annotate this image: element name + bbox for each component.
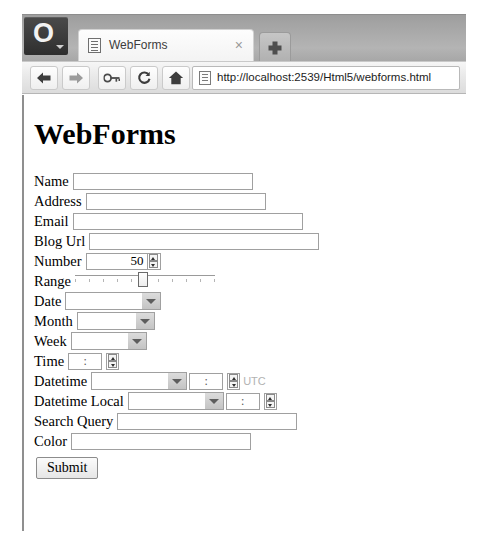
number-input[interactable] <box>86 253 148 270</box>
address-bar[interactable]: http://localhost:2539/Html5/webforms.htm… <box>192 66 460 90</box>
label-email: Email <box>34 213 73 230</box>
email-input[interactable] <box>73 213 303 230</box>
form-row-week: Week <box>34 331 466 351</box>
name-input[interactable] <box>73 173 253 190</box>
datetime-local-time-input[interactable]: : <box>226 393 260 410</box>
number-stepper[interactable] <box>148 253 161 270</box>
label-name: Name <box>34 173 73 190</box>
stepper-up-icon[interactable] <box>149 254 158 261</box>
stepper-down-icon[interactable] <box>229 381 238 388</box>
tab-strip: O WebForms × <box>22 14 466 62</box>
datetime-stepper[interactable] <box>227 373 240 390</box>
label-address: Address <box>34 193 86 210</box>
stepper-up-icon[interactable] <box>229 374 238 381</box>
range-slider[interactable] <box>75 272 215 290</box>
label-range: Range <box>34 273 75 290</box>
site-favicon-icon <box>199 71 211 85</box>
back-arrow-icon <box>37 72 52 85</box>
plus-icon <box>269 41 282 54</box>
form-row-month: Month <box>34 311 466 331</box>
new-tab-button[interactable] <box>259 32 291 62</box>
address-input[interactable] <box>86 193 266 210</box>
chevron-down-icon[interactable] <box>168 373 186 389</box>
opera-menu-button[interactable]: O <box>24 17 68 55</box>
stepper-down-icon[interactable] <box>266 401 275 408</box>
form-row-name: Name <box>34 171 466 191</box>
form-row-blog-url: Blog Url <box>34 231 466 251</box>
web-forms: Name Address Email Blog Url <box>34 171 466 479</box>
page-viewport: WebForms Name Address Email <box>22 95 466 531</box>
range-thumb[interactable] <box>138 272 148 287</box>
address-bar-url: http://localhost:2539/Html5/webforms.htm… <box>217 71 431 83</box>
key-icon <box>104 73 121 84</box>
security-key-button[interactable] <box>98 66 126 90</box>
date-picker[interactable] <box>65 292 161 310</box>
back-button[interactable] <box>30 66 58 90</box>
stepper-down-icon[interactable] <box>149 261 158 268</box>
label-month: Month <box>34 313 77 330</box>
label-search-query: Search Query <box>34 413 117 430</box>
time-input[interactable]: : <box>68 353 102 370</box>
reload-icon <box>137 71 152 86</box>
label-datetime-local: Datetime Local <box>34 393 128 410</box>
month-picker[interactable] <box>77 312 155 330</box>
form-row-range: Range <box>34 271 466 291</box>
week-picker[interactable] <box>71 332 147 350</box>
chevron-down-icon[interactable] <box>142 293 160 309</box>
color-input[interactable] <box>71 433 251 450</box>
form-row-date: Date <box>34 291 466 311</box>
form-row-submit: Submit <box>34 451 466 479</box>
time-stepper[interactable] <box>106 353 119 370</box>
label-datetime: Datetime <box>34 373 91 390</box>
close-icon[interactable]: × <box>235 38 243 52</box>
stepper-down-icon[interactable] <box>108 361 117 368</box>
stepper-up-icon[interactable] <box>266 394 275 401</box>
form-row-number: Number <box>34 251 466 271</box>
navigation-toolbar: http://localhost:2539/Html5/webforms.htm… <box>22 61 466 94</box>
form-row-search-query: Search Query <box>34 411 466 431</box>
home-button[interactable] <box>162 66 190 90</box>
label-color: Color <box>34 433 71 450</box>
form-row-datetime: Datetime : UTC <box>34 371 466 391</box>
datetime-time-input[interactable]: : <box>189 373 223 390</box>
browser-tab-webforms[interactable]: WebForms × <box>78 29 254 62</box>
form-row-address: Address <box>34 191 466 211</box>
page-title: WebForms <box>34 117 466 151</box>
submit-button[interactable]: Submit <box>36 457 98 479</box>
reload-button[interactable] <box>130 66 158 90</box>
form-row-color: Color <box>34 431 466 451</box>
label-blog-url: Blog Url <box>34 233 89 250</box>
page-favicon-icon <box>88 38 101 53</box>
chevron-down-icon[interactable] <box>136 313 154 329</box>
datetime-date-picker[interactable] <box>91 372 187 390</box>
search-input[interactable] <box>117 413 297 430</box>
forward-button[interactable] <box>62 66 90 90</box>
datetime-local-stepper[interactable] <box>264 393 277 410</box>
form-row-time: Time : <box>34 351 466 371</box>
browser-window: O WebForms × <box>22 14 466 531</box>
chevron-down-icon <box>56 45 64 49</box>
tab-title: WebForms <box>109 38 167 52</box>
chevron-down-icon[interactable] <box>128 333 146 349</box>
opera-logo-icon: O <box>33 20 53 47</box>
label-week: Week <box>34 333 71 350</box>
label-date: Date <box>34 293 65 310</box>
blog-url-input[interactable] <box>89 233 319 250</box>
chevron-down-icon[interactable] <box>205 393 223 409</box>
form-row-datetime-local: Datetime Local : <box>34 391 466 411</box>
home-icon <box>169 71 184 85</box>
forward-arrow-icon <box>69 72 84 85</box>
form-row-email: Email <box>34 211 466 231</box>
label-time: Time <box>34 353 68 370</box>
stepper-up-icon[interactable] <box>108 354 117 361</box>
label-number: Number <box>34 253 86 270</box>
datetime-local-date-picker[interactable] <box>128 392 224 410</box>
datetime-utc-suffix: UTC <box>240 375 266 387</box>
